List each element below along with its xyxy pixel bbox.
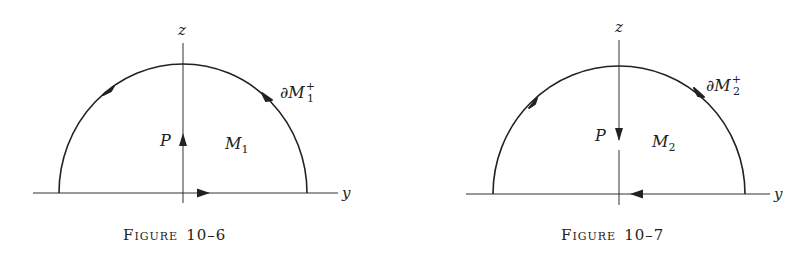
point-label: P	[594, 126, 606, 145]
figure-10-6: y z P M1 ∂M+1 FIGURE10–6	[33, 21, 351, 244]
figure-10-7: y z P M2 ∂M+2 FIGURE10–7	[466, 18, 783, 244]
z-axis-label: z	[177, 21, 186, 39]
figure-caption: FIGURE10–7	[561, 226, 664, 244]
arrow-p-up-icon	[179, 133, 187, 146]
figure-caption: FIGURE10–6	[123, 226, 226, 244]
z-axis-label: z	[614, 18, 623, 36]
arrow-right-arc-icon	[262, 93, 272, 101]
arrow-baseline-right-icon	[197, 189, 210, 198]
arrow-baseline-left-icon	[630, 190, 643, 199]
arrow-p-down-icon	[615, 128, 623, 141]
point-label: P	[159, 131, 171, 150]
region-label: M2	[651, 132, 675, 154]
arrow-left-arc-icon	[103, 86, 114, 95]
boundary-label: ∂M+2	[706, 73, 741, 98]
arrow-right-arc-icon	[694, 88, 704, 97]
y-axis-label: y	[773, 185, 783, 203]
region-label: M1	[224, 134, 248, 156]
boundary-label: ∂M+1	[280, 80, 315, 105]
region-subscript: 2	[668, 141, 675, 154]
figures-canvas: y z P M1 ∂M+1 FIGURE10–6 y z P	[0, 0, 812, 263]
y-axis-label: y	[341, 184, 351, 202]
region-subscript: 1	[241, 143, 248, 156]
